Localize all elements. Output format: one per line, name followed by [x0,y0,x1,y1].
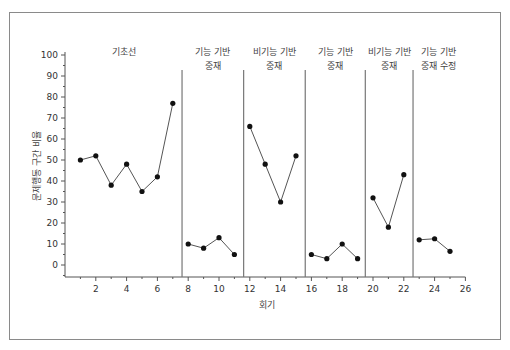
phase-labels: 기초선기능 기반중재비기능 기반중재기능 기반중재비기능 기반중재기능 기반중재… [112,47,456,71]
data-point-marker [186,241,191,246]
data-point-marker [447,249,452,254]
phase-label: 기능 기반 [318,47,353,57]
x-tick-label: 12 [244,284,255,294]
data-point-marker [386,225,391,230]
data-series [78,101,453,262]
y-tick-label: 50 [47,155,59,165]
series-phase [370,172,406,230]
series-line [373,175,404,228]
data-point-marker [263,162,268,167]
data-point-marker [78,157,83,162]
data-point-marker [139,189,144,194]
x-axis-title: 회기 [259,300,275,310]
y-tick-label: 20 [47,218,59,228]
series-phase [186,235,237,257]
phase-label: 중재 [327,61,343,71]
phase-label: 비기능 기반 [368,47,411,57]
y-tick-label: 0 [52,260,58,270]
data-point-marker [293,153,298,158]
data-point-marker [370,195,375,200]
y-tick-label: 40 [47,176,59,186]
data-point-marker [247,124,252,129]
series-phase [247,124,298,205]
phase-label: 기초선 [112,47,136,57]
series-phase [309,241,360,261]
y-axis-title: 문제행동 구간 비율 [31,131,42,201]
phase-label: 비기능 기반 [253,47,296,57]
series-phase [78,101,176,194]
phase-label: 중재 [381,61,397,71]
y-tick-label: 80 [47,92,59,102]
x-tick-label: 4 [124,284,130,294]
x-tick-label: 18 [336,284,348,294]
series-line [311,244,357,259]
y-tick-label: 100 [41,50,58,60]
series-phase [417,236,453,254]
data-point-marker [417,237,422,242]
data-point-marker [324,256,329,261]
x-tick-label: 2 [93,284,99,294]
data-point-marker [309,252,314,257]
phase-change-lines [182,70,413,277]
chart: 0102030405060708090100246810121416182022… [0,0,510,350]
data-point-marker [201,246,206,251]
data-point-marker [432,236,437,241]
x-tick-label: 26 [460,284,472,294]
y-tick-label: 70 [47,113,59,123]
phase-label: 중재 [266,61,282,71]
x-tick-label: 20 [367,284,379,294]
data-point-marker [216,235,221,240]
x-tick-label: 16 [306,284,318,294]
data-point-marker [401,172,406,177]
x-tick-label: 8 [185,284,191,294]
data-point-marker [340,241,345,246]
y-tick-label: 60 [47,134,59,144]
phase-label: 기능 기반 [421,47,456,57]
data-point-marker [93,153,98,158]
y-tick-label: 10 [47,239,59,249]
data-point-marker [155,174,160,179]
phase-label: 중재 [205,61,221,71]
data-point-marker [170,101,175,106]
data-point-marker [232,252,237,257]
data-point-marker [278,199,283,204]
y-tick-label: 90 [47,71,59,81]
y-tick-label: 30 [47,197,59,207]
x-tick-label: 22 [398,284,409,294]
phase-label: 중재 수정 [421,61,456,71]
x-tick-label: 10 [213,284,225,294]
data-point-marker [124,162,129,167]
x-tick-label: 24 [429,284,441,294]
series-line [188,238,234,255]
data-point-marker [355,256,360,261]
x-tick-label: 6 [155,284,161,294]
x-tick-label: 14 [275,284,287,294]
axes: 0102030405060708090100246810121416182022… [41,50,472,294]
data-point-marker [109,183,114,188]
phase-label: 기능 기반 [195,47,230,57]
series-line [250,126,296,202]
